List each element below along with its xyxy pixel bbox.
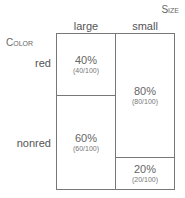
cell-small-red: 80% (80/100) — [115, 33, 175, 158]
cell-percent: 40% — [75, 54, 97, 66]
cell-percent: 60% — [75, 132, 97, 144]
cell-fraction: (40/100) — [73, 66, 99, 75]
cell-fraction: (80/100) — [132, 97, 158, 106]
cell-large-nonred: 60% (60/100) — [56, 95, 116, 190]
cell-percent: 20% — [134, 163, 156, 175]
size-axis-title: Size — [161, 4, 179, 15]
cell-large-red: 40% (40/100) — [56, 33, 116, 96]
cell-percent: 80% — [134, 85, 156, 97]
column-label-large: large — [57, 20, 115, 32]
row-label-nonred: nonred — [0, 137, 51, 149]
cell-fraction: (20/100) — [132, 175, 158, 184]
row-label-red: red — [0, 57, 51, 69]
cell-fraction: (60/100) — [73, 144, 99, 153]
color-axis-title: Color — [6, 37, 33, 48]
cell-small-nonred: 20% (20/100) — [115, 157, 175, 190]
column-label-small: small — [116, 20, 174, 32]
